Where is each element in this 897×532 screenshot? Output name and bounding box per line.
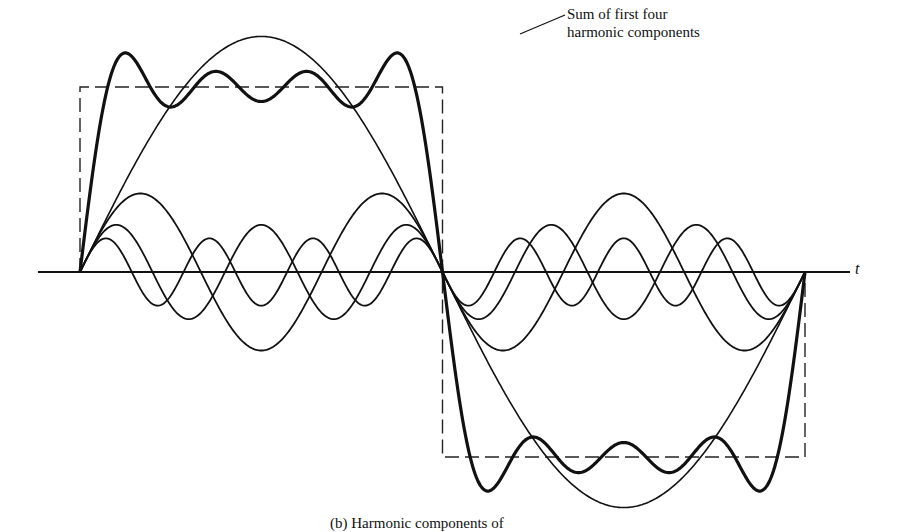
annotation-line-2: harmonic components xyxy=(567,23,700,41)
annotation-line-1: Sum of first four xyxy=(567,5,700,23)
sum-annotation: Sum of first four harmonic components xyxy=(567,5,700,41)
t-axis-label: t xyxy=(855,260,859,278)
figure-caption: (b) Harmonic components of xyxy=(330,515,504,532)
annotation-leader-line xyxy=(520,15,565,34)
